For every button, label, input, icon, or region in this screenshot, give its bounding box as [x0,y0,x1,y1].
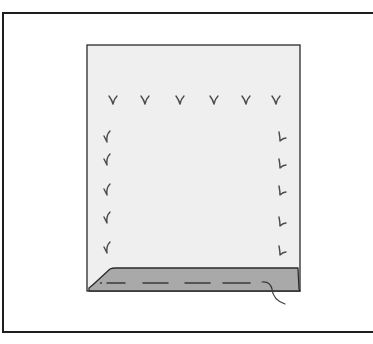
sewing-diagram: tailor's tacks basted hem thread tail [0,0,373,344]
panel-rect [87,45,300,291]
fabric-panel [87,45,300,291]
diagram-canvas [0,0,373,344]
hem-band [89,268,300,291]
basted-hem [89,268,300,291]
stitch-knot [100,282,102,284]
